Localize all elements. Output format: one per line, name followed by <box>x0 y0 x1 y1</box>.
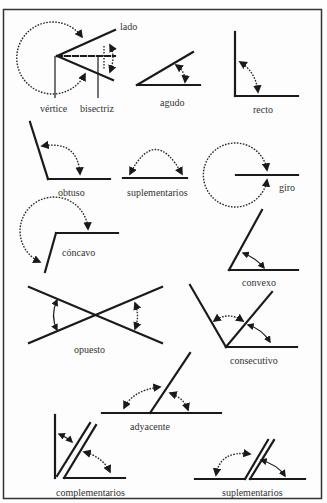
label-giro: giro <box>279 182 295 193</box>
angle-suplementarios-bottom: suplementarios <box>195 440 305 498</box>
angle-agudo: agudo <box>137 52 200 108</box>
angle-suplementarios-top: suplementarios <box>123 150 188 199</box>
label-obtuso: obtuso <box>58 187 85 198</box>
label-consecutivo: consecutivo <box>230 355 278 366</box>
angle-obtuso: obtuso <box>30 122 110 198</box>
label-vertice: vértice <box>40 103 68 114</box>
angle-consecutivo: consecutivo <box>190 285 297 366</box>
label-recto: recto <box>253 104 273 115</box>
angle-recto: recto <box>235 32 298 115</box>
angle-types-diagram: lado vértice bisectriz agudo recto obtus… <box>0 0 327 503</box>
label-agudo: agudo <box>160 97 184 108</box>
label-concavo: cóncavo <box>62 247 95 258</box>
label-suplementarios-2: suplementarios <box>222 487 283 498</box>
angle-concavo: cóncavo <box>20 197 118 272</box>
label-adyacente: adyacente <box>130 421 171 432</box>
label-bisectriz: bisectriz <box>80 103 114 114</box>
angle-anatomy: lado vértice bisectriz <box>17 21 137 114</box>
angle-opuesto: opuesto <box>29 287 162 355</box>
label-lado: lado <box>120 21 137 32</box>
angle-adyacente: adyacente <box>102 353 221 432</box>
label-convexo: convexo <box>242 277 276 288</box>
label-complementarios: complementarios <box>56 487 125 498</box>
angle-giro: giro <box>203 143 298 207</box>
angle-complementarios: complementarios <box>55 415 125 498</box>
angle-convexo: convexo <box>229 210 298 288</box>
label-suplementarios-1: suplementarios <box>127 187 188 198</box>
label-opuesto: opuesto <box>74 344 105 355</box>
